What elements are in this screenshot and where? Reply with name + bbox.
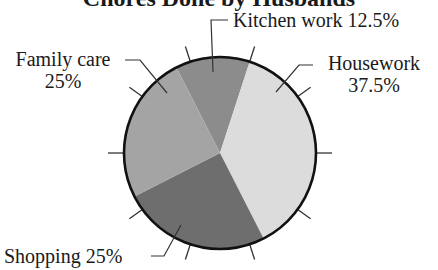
housework-name: Housework: [318, 52, 430, 74]
kitchen-value: 12.5%: [347, 9, 399, 31]
tick-mark: [298, 209, 311, 218]
tick-mark: [185, 46, 190, 61]
tick-mark: [129, 87, 142, 96]
tick-mark: [250, 244, 255, 259]
pie-chart: [0, 0, 438, 270]
tick-mark: [250, 46, 255, 61]
label-family-care: Family care 25%: [4, 48, 122, 92]
shopping-name: Shopping: [4, 245, 81, 267]
tick-mark: [298, 87, 311, 96]
label-housework: Housework 37.5%: [318, 52, 430, 96]
shopping-value: 25%: [86, 245, 123, 267]
tick-mark: [185, 244, 190, 259]
tick-mark: [129, 209, 142, 218]
family-value: 25%: [4, 70, 122, 92]
family-name: Family care: [4, 48, 122, 70]
housework-value: 37.5%: [318, 74, 430, 96]
label-kitchen-work: Kitchen work 12.5%: [233, 9, 399, 31]
kitchen-name: Kitchen work: [233, 9, 342, 31]
label-shopping: Shopping 25%: [4, 245, 122, 267]
